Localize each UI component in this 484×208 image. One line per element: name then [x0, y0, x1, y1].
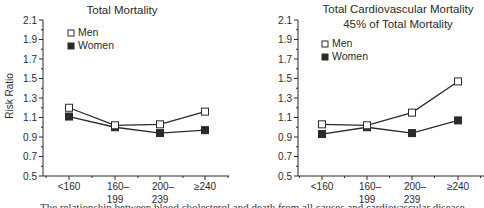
x-tick-label: <160	[311, 181, 334, 192]
open-square-marker	[112, 122, 119, 129]
filled-square-marker	[319, 131, 326, 138]
y-tick-label: 1.7	[23, 54, 37, 65]
series-line-men	[322, 81, 458, 125]
y-tick-label: 1.9	[23, 34, 37, 45]
filled-square-marker	[409, 130, 416, 137]
chart-subtitle: 45% of Total Mortality	[343, 18, 453, 30]
filled-square-marker	[455, 117, 462, 124]
y-tick-label: 1.3	[278, 93, 292, 104]
legend-label-men: Men	[78, 26, 99, 38]
open-square-marker	[455, 78, 462, 85]
figure-caption: The relationship between blood cholester…	[40, 201, 480, 208]
x-tick-label: ≥240	[194, 181, 217, 192]
x-tick-label: 200–	[404, 181, 427, 192]
y-tick-label: 1.5	[278, 73, 292, 84]
y-tick-label: 1.1	[278, 112, 292, 123]
x-tick-label: ≥240	[447, 181, 470, 192]
y-tick-label: 1.7	[278, 54, 292, 65]
legend-label-women: Women	[78, 39, 114, 51]
open-square-marker	[319, 121, 326, 128]
x-tick-label: 200–	[152, 181, 175, 192]
y-tick-label: 2.1	[278, 15, 292, 26]
y-tick-label: 0.7	[23, 151, 37, 162]
y-tick-label: 1.3	[23, 93, 37, 104]
chart-title: Total Mortality	[87, 4, 158, 16]
filled-square-marker	[66, 113, 73, 120]
legend-label-men: Men	[332, 37, 353, 49]
series-line-men	[69, 108, 205, 126]
legend-label-women: Women	[332, 50, 368, 62]
y-tick-label: 2.1	[23, 15, 37, 26]
legend-filled-square-icon	[68, 43, 74, 49]
open-square-marker	[364, 122, 371, 129]
filled-square-marker	[157, 130, 164, 137]
chart-total-mortality: Total Mortality0.50.70.91.11.31.51.71.92…	[23, 4, 229, 205]
x-tick-label: 160–	[107, 181, 130, 192]
y-tick-label: 0.9	[278, 132, 292, 143]
open-square-marker	[66, 104, 73, 111]
y-tick-label: 1.5	[23, 73, 37, 84]
legend-open-square-icon	[322, 41, 328, 47]
y-tick-label: 0.5	[23, 171, 37, 182]
y-tick-label: 0.9	[23, 132, 37, 143]
y-tick-label: 0.5	[278, 171, 292, 182]
filled-square-marker	[202, 127, 209, 134]
series-line-women	[322, 120, 458, 134]
y-tick-label: 1.1	[23, 112, 37, 123]
chart-cardiovascular-mortality: Total Cardiovascular Mortality45% of Tot…	[278, 3, 484, 205]
open-square-marker	[157, 121, 164, 128]
legend-filled-square-icon	[322, 54, 328, 60]
y-axis-label: Risk Ratio	[4, 73, 15, 119]
y-tick-label: 0.7	[278, 151, 292, 162]
risk-ratio-figure: Risk Ratio Total Mortality0.50.70.91.11.…	[0, 0, 484, 208]
y-tick-label: 1.9	[278, 34, 292, 45]
open-square-marker	[202, 108, 209, 115]
x-tick-label: 160–	[359, 181, 382, 192]
x-tick-label: <160	[58, 181, 81, 192]
open-square-marker	[409, 109, 416, 116]
legend-open-square-icon	[68, 30, 74, 36]
chart-title: Total Cardiovascular Mortality	[323, 3, 474, 15]
